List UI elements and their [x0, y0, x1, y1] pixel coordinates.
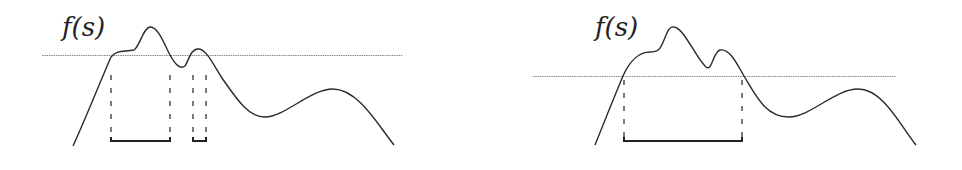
function-curve-right	[595, 27, 916, 145]
right-plot	[0, 0, 962, 170]
interval-bracket-right	[624, 137, 742, 141]
right-panel: f(s)	[0, 0, 962, 170]
